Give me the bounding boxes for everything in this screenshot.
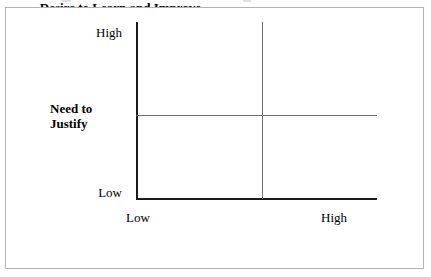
quadrant-figure: High Low Need to Justify Low High Desire… — [0, 0, 431, 277]
y-axis-title-line-2: Justify — [50, 116, 126, 131]
figure-border — [5, 7, 424, 269]
y-axis-title: Need to Justify — [50, 101, 126, 131]
y-axis-tick-low: Low — [32, 185, 122, 200]
cropped-caption-artifact-left — [62, 0, 71, 2]
horizontal-quadrant-divider — [136, 115, 377, 116]
y-axis-tick-high: High — [32, 25, 122, 40]
cropped-caption-artifact-right — [243, 0, 251, 2]
x-axis-tick-low: Low — [126, 210, 150, 225]
x-axis-tick-high: High — [321, 210, 347, 225]
y-axis-line — [136, 22, 138, 200]
y-axis-title-line-1: Need to — [50, 101, 126, 116]
x-axis-line — [136, 198, 377, 200]
vertical-quadrant-divider — [262, 22, 263, 199]
